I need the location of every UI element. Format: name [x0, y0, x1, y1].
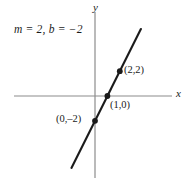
data-point-0-minus2 — [92, 118, 98, 124]
data-point-label-2-2: (2,2) — [124, 65, 144, 76]
data-point-label-0-minus2: (0,–2) — [56, 114, 81, 125]
line-graph-figure: m = 2, b = −2 x y (1,0) (0,–2) (2,2) — [0, 0, 193, 187]
data-point-2-2 — [117, 68, 123, 74]
y-axis-label: y — [93, 2, 98, 13]
data-point-label-1-0: (1,0) — [110, 100, 130, 111]
x-axis-label: x — [176, 88, 181, 99]
axes-group — [14, 12, 172, 178]
slope-intercept-annotation: m = 2, b = −2 — [14, 24, 83, 36]
